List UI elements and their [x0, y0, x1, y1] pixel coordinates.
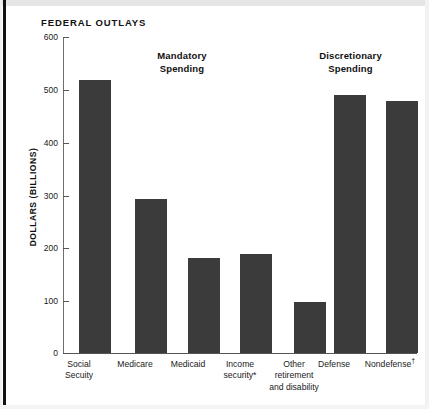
bar-medicare	[135, 199, 167, 353]
bar-social-security	[79, 80, 111, 353]
cat-label-social-security-line2: Secuity	[48, 370, 110, 381]
bar-other-retirement	[294, 302, 326, 353]
y-tick-label-600: 600	[28, 32, 58, 42]
scan-edge-right	[425, 0, 429, 409]
bar-medicaid	[188, 258, 220, 353]
plot-area	[63, 37, 417, 353]
cat-label-nondefense-dagger: †	[411, 357, 415, 364]
chart-title: FEDERAL OUTLAYS	[41, 17, 146, 28]
y-tick-label-300: 300	[28, 191, 58, 201]
cat-label-social-security: Social Secuity	[48, 359, 110, 382]
y-tick-label-400: 400	[28, 138, 58, 148]
y-tick-label-100: 100	[28, 296, 58, 306]
y-tick-label-200: 200	[28, 243, 58, 253]
y-tick-0	[63, 353, 69, 354]
chart-page: FEDERAL OUTLAYS DOLLARS (BILLIONS) 600 5…	[0, 0, 429, 409]
y-tick-label-0: 0	[28, 348, 58, 358]
scan-edge-top	[0, 0, 429, 6]
cat-label-nondefense-line1: Nondefense	[365, 359, 411, 369]
scan-edge-left-dark	[3, 0, 6, 409]
y-tick-label-500: 500	[28, 85, 58, 95]
cat-label-social-security-line1: Social	[48, 359, 110, 370]
scan-edge-bottom	[0, 405, 429, 409]
cat-label-other-retirement-line3: and disability	[254, 382, 334, 393]
bar-nondefense	[386, 101, 418, 353]
cat-label-nondefense: Nondefense†	[356, 359, 424, 370]
x-axis-line	[63, 353, 417, 354]
bar-income-security	[240, 254, 272, 353]
scan-edge-left-light	[0, 0, 2, 409]
bar-defense	[334, 95, 366, 353]
cat-label-other-retirement-line2: retirement	[254, 370, 334, 381]
